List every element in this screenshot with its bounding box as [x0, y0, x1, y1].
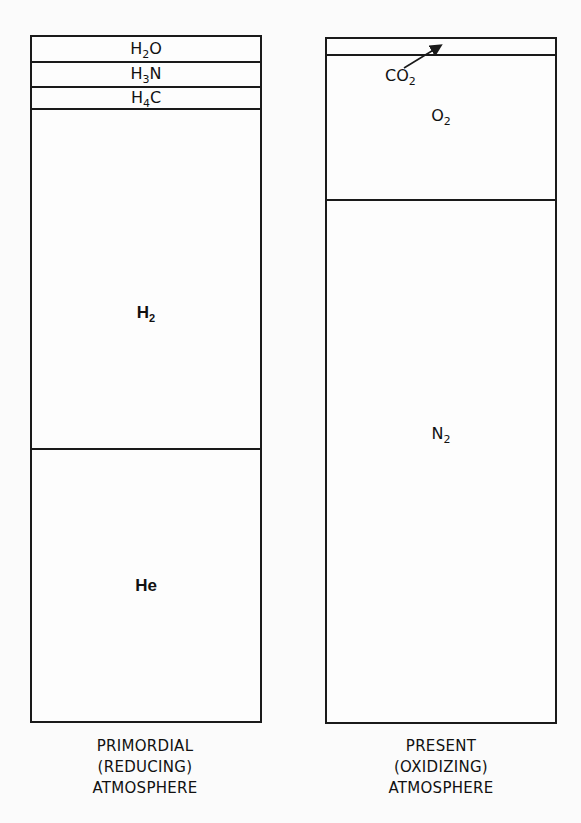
caption-line: (OXIDIZING) — [341, 757, 541, 778]
caption-line: PRESENT — [341, 736, 541, 757]
present-caption: PRESENT (OXIDIZING) ATMOSPHERE — [341, 736, 541, 799]
caption-line: ATMOSPHERE — [341, 778, 541, 799]
arrow-icon — [0, 0, 581, 823]
